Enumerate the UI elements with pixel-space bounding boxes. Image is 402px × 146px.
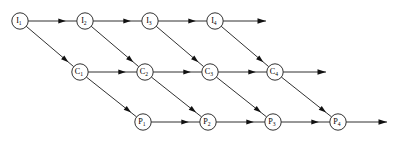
arrowhead-C2-to-P2 xyxy=(189,106,196,113)
arrowhead-I2-to-I3 xyxy=(123,19,131,24)
node-P1[interactable]: P1 xyxy=(135,114,151,130)
node-I1[interactable]: I1 xyxy=(12,13,28,29)
arrowhead-C1-to-P1 xyxy=(124,106,131,113)
arrowhead-P2-to-P3 xyxy=(246,120,254,125)
nodes-layer: I1I2I3I4C1C2C3C4P1P2P3P4 xyxy=(12,13,346,130)
lattice-diagram-svg: I1I2I3I4C1C2C3C4P1P2P3P4 xyxy=(0,0,402,146)
arrowhead-C2-to-C3 xyxy=(183,70,191,75)
node-I2[interactable]: I2 xyxy=(77,13,93,29)
arrowhead-P3-to-P4 xyxy=(311,120,319,125)
arrowhead-C4-to-P4 xyxy=(319,106,326,113)
arrowheads-layer xyxy=(58,18,387,124)
node-C3[interactable]: C3 xyxy=(202,64,218,80)
node-C1[interactable]: C1 xyxy=(72,64,88,80)
arrowhead-C1-to-C2 xyxy=(118,70,126,75)
node-P4[interactable]: P4 xyxy=(330,114,346,130)
arrowhead-P1-to-P2 xyxy=(181,120,189,125)
node-P3[interactable]: P3 xyxy=(265,114,281,130)
node-C4[interactable]: C4 xyxy=(267,64,283,80)
node-P2[interactable]: P2 xyxy=(200,114,216,130)
arrowhead-C3-to-C4 xyxy=(248,70,256,75)
node-C2[interactable]: C2 xyxy=(137,64,153,80)
arrowhead-terminal-C4 xyxy=(318,69,327,74)
arrowhead-C3-to-P3 xyxy=(254,106,261,113)
arrowhead-terminal-I4 xyxy=(258,18,267,23)
arrowhead-I1-to-I2 xyxy=(58,19,66,24)
node-I4[interactable]: I4 xyxy=(207,13,223,29)
arrowhead-terminal-P4 xyxy=(379,119,388,124)
arrowhead-I3-to-I4 xyxy=(188,19,196,24)
diagram-canvas: I1I2I3I4C1C2C3C4P1P2P3P4 xyxy=(0,0,402,146)
node-I3[interactable]: I3 xyxy=(142,13,158,29)
